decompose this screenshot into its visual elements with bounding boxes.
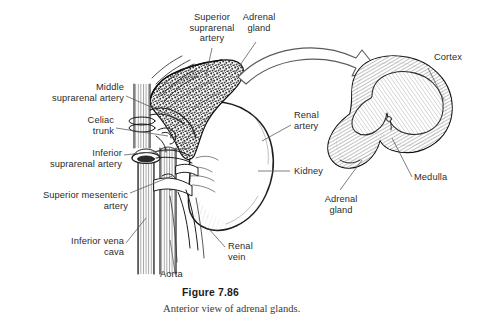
label-medulla: Medulla	[414, 172, 468, 183]
figure-number: Figure 7.86	[182, 287, 239, 298]
label-kidney: Kidney	[294, 166, 342, 177]
label-renal-artery: Renal artery	[294, 110, 344, 131]
figure-adrenal-glands: Superior suprarenal artery Adrenal gland…	[0, 0, 485, 322]
inferior-vena-cava-vessel	[132, 149, 160, 274]
label-aorta: Aorta	[160, 269, 206, 280]
label-adrenal-gland-top: Adrenal gland	[228, 12, 290, 33]
label-superior-mesenteric-artery: Superior mesenteric artery	[0, 190, 128, 211]
figure-caption: Anterior view of adrenal glands.	[163, 303, 300, 314]
label-adrenal-gland-section: Adrenal gland	[310, 194, 372, 215]
label-cortex: Cortex	[434, 52, 482, 63]
label-inferior-vena-cava: Inferior vena cava	[0, 236, 124, 257]
aorta-vessel	[160, 147, 176, 274]
label-inferior-suprarenal-artery: Inferior suprarenal artery	[0, 148, 122, 169]
label-celiac-trunk: Celiac trunk	[0, 115, 114, 136]
label-renal-vein: Renal vein	[228, 241, 276, 262]
renal-artery-vessel	[176, 164, 198, 176]
upper-vessel-trunk	[129, 84, 155, 148]
adrenal-gland-cross-section	[328, 56, 452, 168]
label-middle-suprarenal-artery: Middle suprarenal artery	[0, 82, 124, 103]
